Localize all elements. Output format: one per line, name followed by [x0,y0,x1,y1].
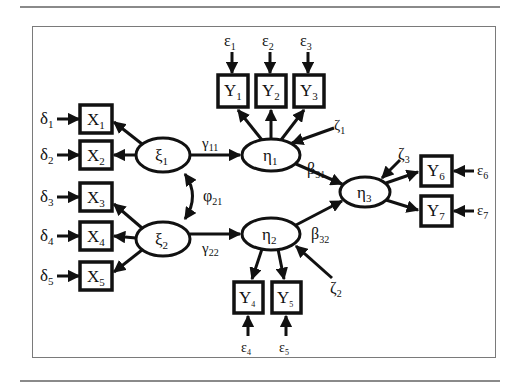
beta32-label: β32 [311,225,329,245]
delta5-label: δ5 [40,266,54,287]
eps3-label: ε3 [300,32,312,52]
x-indicators: X1 X2 X3 X4 X5 δ1 δ2 δ3 δ4 δ5 [40,105,112,290]
x-loadings [114,122,142,272]
zeta1-arrow [292,128,334,143]
eps6-label: ε6 [477,162,488,181]
delta2-label: δ2 [40,145,54,166]
zeta1-label: ζ1 [334,117,345,136]
phi21-arrow [185,174,193,219]
eps7-label: ε7 [477,202,488,221]
y-bottom-indicators: Y4 Y5 ε4 ε5 [234,249,301,357]
zeta3-arrow [382,160,400,178]
gamma22-label: γ22 [201,240,219,258]
zeta2-arrow [296,246,332,278]
eps4-label: ε4 [241,340,251,357]
beta31-label: β31 [307,160,325,180]
zeta2-label: ζ2 [330,279,342,299]
delta3-label: δ3 [40,187,54,208]
eps5-label: ε5 [279,340,289,357]
eps1-label: ε1 [224,32,236,52]
eps2-label: ε2 [262,32,274,52]
delta4-label: δ4 [40,226,54,247]
sem-diagram: X1 X2 X3 X4 X5 δ1 δ2 δ3 δ4 δ5 ξ1 ξ2 φ21 … [0,0,526,384]
beta32-arrow [296,201,342,225]
phi21-label: φ21 [203,187,222,207]
gamma11-label: γ11 [201,135,218,153]
delta1-label: δ1 [40,109,54,130]
y-top-indicators: Y1 Y2 Y3 ε1 ε2 ε3 [218,32,324,140]
